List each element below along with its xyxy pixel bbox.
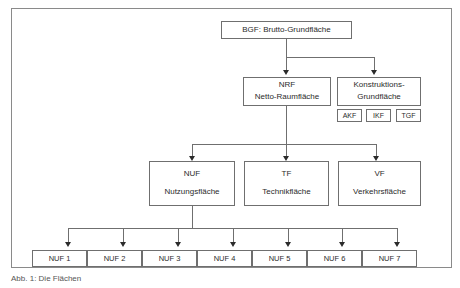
connector-bar-to-nuf1 — [68, 228, 69, 243]
tag-tgf[interactable]: TGF — [396, 109, 421, 122]
node-nuf[interactable]: NUF Nutzungsfläche — [149, 161, 235, 206]
arrowhead-nrf-icon — [283, 70, 289, 75]
arrowhead-nuf4-icon — [230, 242, 236, 247]
connector-bar-to-nuf7 — [397, 228, 398, 243]
leaf-nuf-5-label: NUF 5 — [269, 254, 291, 263]
connector-bar-to-nuf4 — [233, 228, 234, 243]
node-bgf-label: BGF: Brutto-Grundfläche — [242, 25, 330, 36]
node-bgf[interactable]: BGF: Brutto-Grundfläche — [221, 21, 352, 39]
node-nrf-code: NRF — [279, 80, 295, 91]
leaf-nuf-6[interactable]: NUF 6 — [307, 250, 362, 267]
node-nrf-name: Netto-Raumfläche — [255, 92, 319, 103]
node-konstruktions-grundflaeche[interactable]: Konstruktions- Grundfläche — [337, 77, 421, 106]
connector-root-to-kgf — [374, 57, 375, 71]
leaf-nuf-5[interactable]: NUF 5 — [252, 250, 307, 267]
node-nrf[interactable]: NRF Netto-Raumfläche — [243, 77, 331, 106]
leaf-nuf-7[interactable]: NUF 7 — [362, 250, 417, 267]
tag-ikf[interactable]: IKF — [366, 109, 391, 122]
arrowhead-nuf2-icon — [120, 242, 126, 247]
node-nuf-name: Nutzungsfläche — [164, 187, 219, 198]
diagram-frame: BGF: Brutto-Grundfläche NRF Netto-Raumfl… — [11, 8, 452, 268]
leaf-nuf-7-label: NUF 7 — [379, 254, 401, 263]
figure-caption: Abb. 1: Die Flächen — [11, 274, 81, 283]
connector-nuf-stem — [192, 206, 193, 228]
leaf-nuf-2[interactable]: NUF 2 — [87, 250, 142, 267]
node-kgf-name: Grundfläche — [357, 92, 401, 103]
leaf-nuf-2-label: NUF 2 — [104, 254, 126, 263]
connector-root-stem — [286, 39, 287, 57]
node-vf-name: Verkehrsfläche — [353, 187, 406, 198]
connector-level3-bar — [192, 144, 376, 145]
tag-akf[interactable]: AKF — [337, 109, 362, 122]
leaf-nuf-3[interactable]: NUF 3 — [142, 250, 197, 267]
connector-bar-to-nuf6 — [342, 228, 343, 243]
node-vf[interactable]: VF Verkehrsfläche — [338, 161, 421, 206]
arrowhead-nuf1-icon — [65, 242, 71, 247]
arrowhead-nuf5-icon — [285, 242, 291, 247]
node-nuf-code: NUF — [184, 169, 200, 180]
connector-nrf-stem — [286, 106, 287, 144]
arrowhead-kgf-icon — [371, 70, 377, 75]
connector-bar-to-nuf2 — [123, 228, 124, 243]
leaf-nuf-3-label: NUF 3 — [159, 254, 181, 263]
tag-ikf-label: IKF — [373, 112, 384, 119]
connector-root-bar — [286, 57, 374, 58]
leaf-nuf-6-label: NUF 6 — [324, 254, 346, 263]
node-tf-code: TF — [282, 169, 292, 180]
connector-bar-to-nuf5 — [288, 228, 289, 243]
leaf-nuf-1[interactable]: NUF 1 — [32, 250, 87, 267]
node-tf-name: Technikfläche — [262, 187, 310, 198]
node-tf[interactable]: TF Technikfläche — [244, 161, 329, 206]
tag-tgf-label: TGF — [402, 112, 416, 119]
node-vf-code: VF — [374, 169, 384, 180]
leaf-nuf-1-label: NUF 1 — [49, 254, 71, 263]
arrowhead-nuf3-icon — [175, 242, 181, 247]
leaf-nuf-4[interactable]: NUF 4 — [197, 250, 252, 267]
connector-bar-to-nuf3 — [178, 228, 179, 243]
arrowhead-nuf6-icon — [339, 242, 345, 247]
connector-root-to-nrf — [286, 57, 287, 71]
tag-akf-label: AKF — [343, 112, 357, 119]
figure-screenshot: BGF: Brutto-Grundfläche NRF Netto-Raumfl… — [0, 0, 460, 288]
leaf-nuf-4-label: NUF 4 — [214, 254, 236, 263]
node-kgf-code: Konstruktions- — [353, 80, 404, 91]
arrowhead-nuf7-icon — [394, 242, 400, 247]
